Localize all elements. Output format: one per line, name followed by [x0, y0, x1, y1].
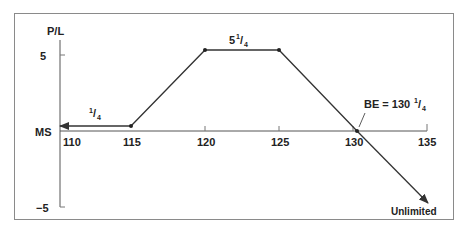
x-tick-label-115: 115 — [123, 136, 141, 148]
x-tick-label-110: 110 — [63, 136, 81, 148]
max-profit-den: 4 — [244, 41, 248, 48]
max-profit-whole: 5 — [229, 34, 235, 46]
max-loss-den: 4 — [97, 114, 101, 121]
y-tick-label-5: 5 — [40, 50, 46, 62]
breakeven-slash: / — [418, 98, 421, 110]
max-profit-slash: / — [240, 34, 243, 46]
payoff-line — [131, 50, 357, 131]
unlimited-label: Unlimited — [391, 206, 437, 217]
y-tick-label-neg5: −5 — [36, 202, 49, 214]
point-breakeven — [355, 129, 359, 133]
max-loss-slash: / — [93, 107, 96, 119]
be-pointer — [359, 113, 365, 127]
point-120 — [203, 48, 207, 52]
y-axis-label: P/L — [47, 25, 64, 37]
point-115 — [129, 124, 133, 128]
point-125 — [277, 48, 281, 52]
x-axis-label: MS — [35, 126, 52, 138]
breakeven-label: BE = 130 — [364, 98, 410, 110]
x-tick-label-125: 125 — [271, 136, 289, 148]
x-tick-label-120: 120 — [197, 136, 215, 148]
x-tick-label-135: 135 — [418, 136, 436, 148]
breakeven-den: 4 — [422, 105, 426, 112]
payoff-chart: P/L 5 −5 MS 110 115 120 125 130 135 1 / … — [0, 0, 469, 231]
x-tick-label-130: 130 — [345, 136, 363, 148]
